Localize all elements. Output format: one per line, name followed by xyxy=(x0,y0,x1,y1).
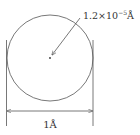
diagram-canvas: 1.2×10−5Å 1Å xyxy=(0,0,140,135)
nucleus-arrow xyxy=(52,18,80,55)
atom-diagram: 1.2×10−5Å 1Å xyxy=(0,0,140,135)
nucleus-dot xyxy=(49,57,51,59)
nucleus-size-label: 1.2×10−5Å xyxy=(83,9,134,21)
diameter-label: 1Å xyxy=(43,119,57,130)
